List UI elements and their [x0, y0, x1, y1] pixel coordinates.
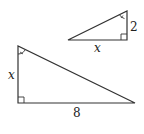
large-right-angle-mark: [18, 97, 24, 103]
small-triangle: 2 x: [68, 11, 138, 55]
large-triangle-shape: [18, 46, 135, 103]
small-right-angle-mark: [121, 34, 127, 40]
triangles-diagram: 2 x x 8: [0, 0, 144, 134]
large-triangle: x 8: [8, 46, 135, 120]
large-horizontal-leg-label: 8: [73, 106, 81, 120]
large-vertical-leg-label: x: [8, 68, 15, 82]
small-horizontal-leg-label: x: [94, 41, 101, 55]
small-vertical-leg-label: 2: [130, 20, 138, 34]
small-triangle-shape: [68, 11, 127, 40]
